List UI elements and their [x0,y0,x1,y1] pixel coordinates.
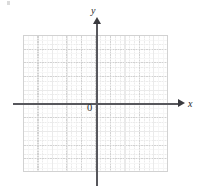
scan-artifact [7,1,10,5]
y-axis-arrow-icon [93,17,101,24]
x-axis-label: x [188,99,192,109]
y-axis-line [96,24,98,186]
y-axis-label: y [91,6,95,16]
origin-label: 0 [87,103,92,114]
x-axis-arrow-icon [178,99,185,107]
coordinate-plane-figure: y x 0 [0,0,199,192]
